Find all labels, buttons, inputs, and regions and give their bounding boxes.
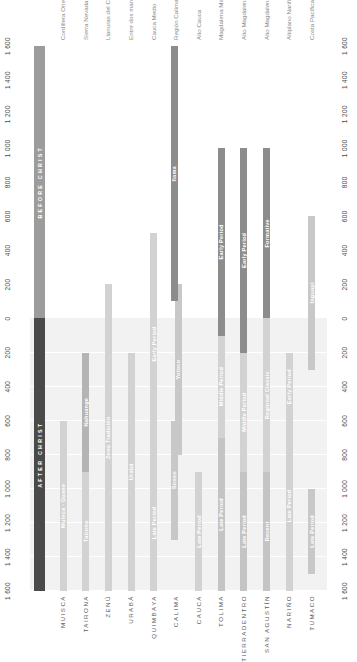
axis-tick-label: 1 600 — [341, 32, 348, 60]
era-axis-bar: BEFORE CHRIST — [34, 46, 45, 319]
segment-label: Late Period — [151, 507, 157, 540]
axis-tick-label: 600 — [341, 202, 348, 230]
axis-tick-label: 200 — [341, 270, 348, 298]
segment-label: Ilama — [171, 166, 177, 181]
segment-label: Recent — [264, 521, 270, 541]
timeline-segment: Muisca - Guane — [60, 421, 67, 591]
axis-tick-label: 1 000 — [4, 475, 11, 503]
timeline-segment: Regional Classic — [263, 319, 270, 472]
segment-label: Early Period — [286, 369, 292, 404]
segment-label: Zenú Tradición — [105, 416, 111, 459]
timeline-segment: Early Period — [218, 148, 225, 335]
segment-label: Regional Classic — [264, 371, 270, 419]
axis-tick-label: 1 200 — [4, 509, 11, 537]
culture-label: TOLIMA — [217, 595, 224, 627]
axis-tick-label: 600 — [4, 202, 11, 230]
segment-label: Early Period — [151, 327, 157, 362]
timeline-segment: Middle Period — [218, 336, 225, 438]
axis-tick-label: 600 — [4, 407, 11, 435]
axis-tick-label: 1 200 — [4, 100, 11, 128]
axis-tick-label: 200 — [341, 339, 348, 367]
region-label: Alto Magdalena — [240, 0, 247, 40]
axis-tick-label: 800 — [341, 168, 348, 196]
gridline — [30, 45, 327, 46]
region-label: Alto Cauca — [195, 10, 202, 40]
segment-label: Urabá — [128, 463, 134, 480]
axis-tick-label: 400 — [341, 236, 348, 264]
timeline-segment: Late Period — [240, 472, 247, 591]
axis-tick-label: 200 — [4, 270, 11, 298]
segment-label: Sonso — [171, 471, 177, 489]
axis-tick-label: 800 — [4, 168, 11, 196]
segment-label: Middle Period — [218, 367, 224, 406]
timeline-segment: Early Period — [286, 353, 293, 421]
region-label: Alto Magdalena — [263, 0, 270, 40]
timeline-segment: Zenú Tradición — [105, 284, 112, 591]
segment-label: Late Period — [286, 490, 292, 523]
gridline — [30, 147, 327, 148]
segment-label: Muisca - Guane — [60, 484, 66, 528]
region-label: Entre dos mares — [127, 0, 134, 40]
gridline — [30, 522, 327, 523]
axis-tick-label: 1 400 — [341, 66, 348, 94]
axis-tick-label: 1 000 — [341, 475, 348, 503]
timeline-segment: Inguapí — [308, 216, 315, 369]
timeline-segment: Urabá — [128, 353, 135, 591]
gridline — [30, 113, 327, 114]
timeline-segment: Tairona — [82, 472, 89, 591]
axis-tick-label: 800 — [341, 441, 348, 469]
region-label: Región Calima — [172, 0, 179, 40]
culture-label: ZENÚ — [104, 595, 111, 618]
culture-label: SAN AGUSTÍN — [263, 595, 270, 653]
segment-label: Inguapí — [309, 282, 315, 303]
axis-tick-label: 1 200 — [341, 509, 348, 537]
timeline-segment: Formative — [263, 148, 270, 318]
culture-label: CALIMA — [172, 595, 179, 627]
segment-label: Early Period — [241, 233, 247, 268]
gridline — [30, 79, 327, 80]
axis-tick-label: 0 — [341, 305, 348, 333]
timeline-segment: Late Period — [218, 438, 225, 591]
gridline — [30, 181, 327, 182]
timeline-segment: Late Period — [150, 455, 157, 591]
axis-tick-label: 600 — [341, 407, 348, 435]
culture-label: TAIRONA — [82, 595, 89, 633]
axis-tick-label: 1 400 — [341, 543, 348, 571]
gridline — [30, 215, 327, 216]
region-label: Cauca Medio — [150, 4, 157, 40]
gridline — [30, 590, 327, 591]
gridline — [30, 249, 327, 250]
axis-tick-label: 1 600 — [341, 577, 348, 605]
axis-tick-label: 1 000 — [341, 134, 348, 162]
region-label: Magdalena Medio — [217, 0, 224, 40]
culture-label: URABÁ — [127, 595, 134, 624]
era-label: AFTER CHRIST — [37, 422, 43, 488]
timeline-segment: Ilama — [171, 46, 178, 301]
segment-label: Late Period — [196, 515, 202, 548]
axis-tick-label: 0 — [4, 305, 11, 333]
timeline-segment: Late Period — [286, 421, 293, 591]
timeline-segment: Recent — [263, 472, 270, 591]
axis-tick-label: 1 000 — [4, 134, 11, 162]
region-label: Llanuras del Caribe — [104, 0, 111, 40]
segment-label: Late Period — [309, 515, 315, 548]
segment-label: Tairona — [83, 521, 89, 542]
era-axis-bar: AFTER CHRIST — [34, 319, 45, 592]
axis-tick-label: 800 — [4, 441, 11, 469]
culture-label: NARIÑO — [285, 595, 292, 628]
region-label: Altiplano Nariñense — [285, 0, 292, 40]
segment-label: Formative — [264, 219, 270, 248]
segment-label: Yotoco — [175, 360, 181, 380]
segment-label: Early Period — [218, 224, 224, 259]
axis-tick-label: 1 400 — [4, 66, 11, 94]
culture-label: MUISCA — [59, 595, 66, 628]
gridline — [30, 556, 327, 557]
gridline — [30, 488, 327, 489]
region-label: Costa Pacífica — [308, 0, 315, 40]
axis-tick-label: 1 400 — [4, 543, 11, 571]
axis-tick-label: 400 — [4, 373, 11, 401]
region-label: Sierra Nevada de Santa Marta — [82, 0, 89, 40]
timeline-segment: Middle Period — [240, 353, 247, 472]
